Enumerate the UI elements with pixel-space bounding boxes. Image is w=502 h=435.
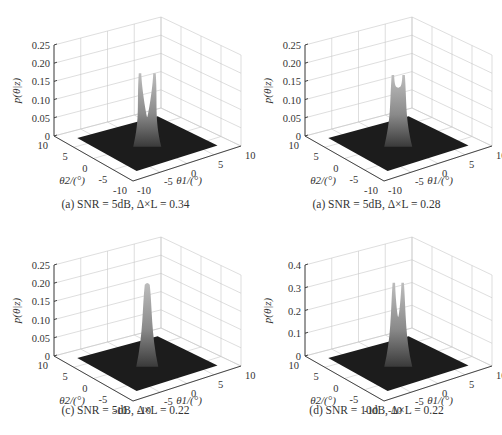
z-tick-label: 0.20: [283, 58, 301, 69]
theta1-tick-label: 10: [496, 150, 502, 161]
z-axis-label: p(θ|z): [261, 297, 274, 324]
surface-plot-b: 00.050.100.150.200.251050-5-10-10-50510p…: [251, 0, 502, 200]
plot-axes: 00.050.100.150.200.251050-5-10-10-50510p…: [10, 237, 256, 416]
theta2-tick-label: -10: [113, 185, 127, 196]
theta2-tick-label: -10: [364, 185, 378, 196]
theta2-axis-label: θ2/(°): [59, 174, 85, 187]
surface-peak: [384, 75, 412, 147]
theta1-tick-label: -5: [164, 176, 173, 187]
z-tick-label: 0.15: [32, 76, 50, 87]
theta2-tick-label: 0: [82, 163, 87, 174]
theta2-tick-label: 5: [63, 151, 68, 162]
caption-b: (a) SNR = 5dB, Δ×L = 0.28: [251, 198, 502, 210]
z-tick-label: 0.05: [32, 333, 50, 344]
theta2-tick-label: 0: [333, 383, 338, 394]
theta2-tick-label: 5: [314, 151, 319, 162]
plot-axes: 00.050.100.150.200.251050-5-10-10-50510p…: [261, 17, 502, 196]
z-tick-label: 0.15: [283, 76, 301, 87]
theta1-tick-label: 10: [496, 370, 502, 381]
theta2-tick-label: 0: [333, 163, 338, 174]
z-tick-label: 0.10: [283, 95, 301, 106]
caption-a: (a) SNR = 5dB, Δ×L = 0.34: [0, 198, 251, 210]
surface-peak: [133, 73, 161, 147]
surface-peak: [384, 283, 412, 367]
theta2-tick-label: -5: [99, 174, 108, 185]
z-tick-label: 0.25: [283, 40, 301, 51]
surface-plot-a: 00.050.100.150.200.251050-5-10-10-50510p…: [0, 0, 251, 200]
z-tick-label: 0.3: [288, 283, 301, 294]
caption-c: (c) SNR = 5dB, Δ×L = 0.22: [0, 404, 251, 416]
theta2-tick-label: 5: [314, 371, 319, 382]
z-tick-label: 0.25: [32, 260, 50, 271]
theta1-axis-label: θ1/(°): [176, 174, 202, 187]
theta1-tick-label: -10: [388, 185, 402, 196]
z-tick-label: 0.10: [32, 95, 50, 106]
z-tick-label: 0.4: [288, 260, 302, 271]
z-tick-label: 0.20: [32, 278, 50, 289]
theta2-tick-label: 10: [38, 140, 49, 151]
z-axis-label: p(θ|z): [10, 77, 23, 104]
z-axis-label: p(θ|z): [10, 297, 23, 324]
theta2-tick-label: 10: [38, 360, 49, 371]
theta1-axis-label: θ1/(°): [427, 174, 453, 187]
plot-axes: 00.050.100.150.200.251050-5-10-10-50510p…: [10, 17, 256, 196]
z-tick-label: 0.05: [32, 113, 50, 124]
z-tick-label: 0.15: [32, 296, 50, 307]
subplot-a: 00.050.100.150.200.251050-5-10-10-50510p…: [0, 0, 251, 220]
theta1-tick-label: 5: [469, 159, 474, 170]
surface-plot-d: 00.10.20.30.41050-5-10-10-50510p(θ|z)θ2/…: [251, 220, 502, 410]
z-tick-label: 0.25: [32, 40, 50, 51]
z-tick-label: 0.10: [32, 315, 50, 326]
theta2-tick-label: 0: [82, 383, 87, 394]
subplot-d: 00.10.20.30.41050-5-10-10-50510p(θ|z)θ2/…: [251, 220, 502, 435]
z-tick-label: 0.2: [288, 306, 301, 317]
z-tick-label: 0.20: [32, 58, 50, 69]
theta2-axis-label: θ2/(°): [310, 174, 336, 187]
z-axis-label: p(θ|z): [261, 77, 274, 104]
theta1-tick-label: 5: [218, 159, 223, 170]
surface-peak: [136, 283, 158, 367]
theta2-tick-label: 10: [289, 140, 300, 151]
theta2-tick-label: -5: [350, 174, 359, 185]
theta1-tick-label: -10: [137, 185, 151, 196]
subplot-b: 00.050.100.150.200.251050-5-10-10-50510p…: [251, 0, 502, 220]
caption-d: (d) SNR = 10dB, Δ×L = 0.22: [251, 404, 502, 416]
theta2-tick-label: 5: [63, 371, 68, 382]
z-tick-label: 0.1: [288, 328, 301, 339]
theta2-tick-label: 10: [289, 360, 300, 371]
surface-plot-c: 00.050.100.150.200.251050-5-10-10-50510p…: [0, 220, 251, 410]
theta1-tick-label: 5: [218, 379, 223, 390]
theta1-tick-label: -5: [415, 176, 424, 187]
z-tick-label: 0.05: [283, 113, 301, 124]
theta1-tick-label: 5: [469, 379, 474, 390]
plot-axes: 00.10.20.30.41050-5-10-10-50510p(θ|z)θ2/…: [261, 237, 502, 416]
subplot-c: 00.050.100.150.200.251050-5-10-10-50510p…: [0, 220, 251, 435]
